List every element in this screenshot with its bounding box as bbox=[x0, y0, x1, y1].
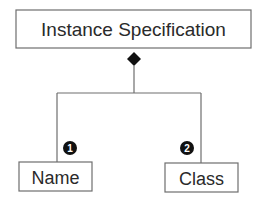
class-node[interactable]: Class bbox=[165, 163, 238, 192]
badge-1-label: 1 bbox=[67, 143, 73, 154]
badge-2-label: 2 bbox=[184, 143, 190, 154]
instance-specification-label: Instance Specification bbox=[41, 19, 226, 40]
name-label: Name bbox=[31, 168, 79, 188]
class-label: Class bbox=[179, 169, 224, 189]
composition-diamond-icon bbox=[127, 52, 141, 66]
instance-specification-node[interactable]: Instance Specification bbox=[16, 10, 251, 48]
badge-2: 2 bbox=[180, 141, 194, 155]
badge-1: 1 bbox=[63, 141, 77, 155]
name-node[interactable]: Name bbox=[19, 162, 92, 191]
diagram-canvas: Instance Specification 1 2 Name Class bbox=[0, 0, 263, 203]
